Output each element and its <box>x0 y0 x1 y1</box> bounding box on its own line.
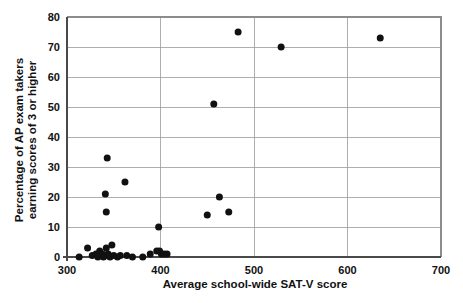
data-point <box>104 155 111 162</box>
x-axis-title: Average school-wide SAT-V score <box>163 278 348 290</box>
y-axis-title-line-1: Percentage of AP exam takers <box>13 58 25 222</box>
x-tick-label: 300 <box>58 264 76 276</box>
x-tick-label: 500 <box>245 264 263 276</box>
x-tick-label: 600 <box>338 264 356 276</box>
scatter-chart: 300400500600700 01020304050607080 Averag… <box>0 0 463 303</box>
data-point <box>164 251 171 258</box>
y-tick-label: 0 <box>54 251 60 263</box>
data-point <box>76 254 83 261</box>
data-points <box>76 29 384 261</box>
y-tick-label: 20 <box>48 191 60 203</box>
data-point <box>121 179 128 186</box>
y-tick-label: 30 <box>48 161 60 173</box>
y-tick-label: 50 <box>48 101 60 113</box>
data-point <box>108 242 115 249</box>
data-point <box>84 245 91 252</box>
data-point <box>103 209 110 216</box>
x-axis-tick-labels: 300400500600700 <box>58 264 450 276</box>
data-point <box>216 194 223 201</box>
plot-frame <box>63 17 441 261</box>
x-tick-label: 700 <box>432 264 450 276</box>
chart-canvas: 300400500600700 01020304050607080 Averag… <box>0 0 463 303</box>
data-point <box>147 251 154 258</box>
data-point <box>129 254 136 261</box>
data-point <box>204 212 211 219</box>
grid-lines <box>67 17 441 257</box>
y-axis-tick-labels: 01020304050607080 <box>48 11 60 263</box>
data-point <box>102 191 109 198</box>
y-tick-label: 70 <box>48 41 60 53</box>
x-tick-label: 400 <box>151 264 169 276</box>
y-tick-label: 40 <box>48 131 60 143</box>
data-point <box>117 252 124 259</box>
y-tick-label: 80 <box>48 11 60 23</box>
data-point <box>225 209 232 216</box>
data-point <box>155 224 162 231</box>
data-point <box>139 254 146 261</box>
y-axis-title-line-2: earning scores of 3 or higher <box>26 60 38 219</box>
data-point <box>278 44 285 51</box>
y-tick-label: 60 <box>48 71 60 83</box>
data-point <box>377 35 384 42</box>
data-point <box>235 29 242 36</box>
y-tick-label: 10 <box>48 221 60 233</box>
data-point <box>210 101 217 108</box>
